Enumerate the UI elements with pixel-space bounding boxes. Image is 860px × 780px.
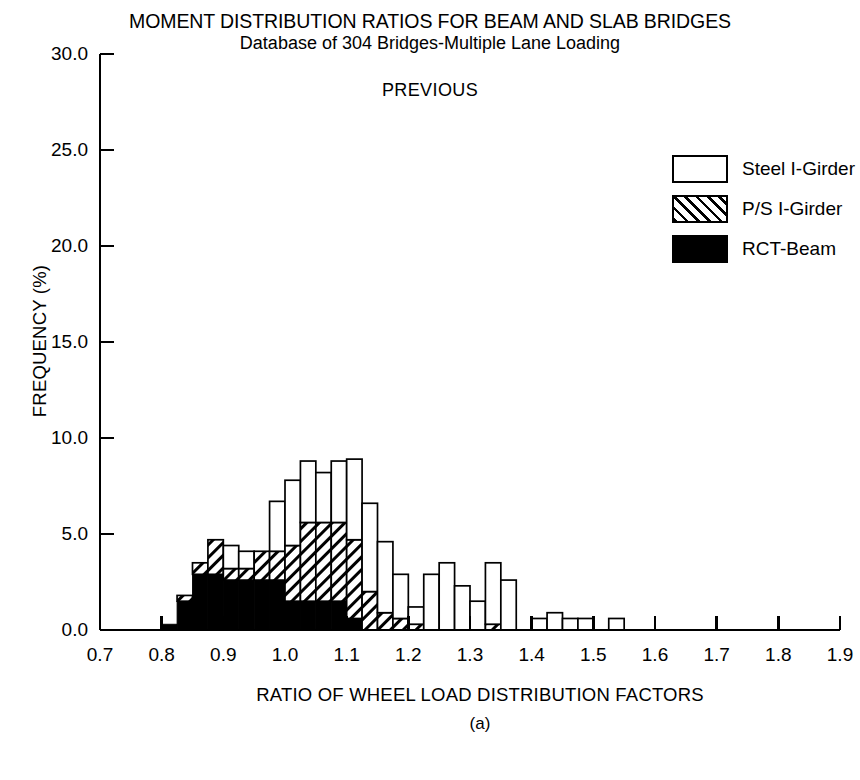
- histogram-bar-segment: [208, 540, 223, 575]
- legend-label: Steel I-Girder: [742, 158, 855, 180]
- histogram-bar-segment: [193, 563, 208, 575]
- histogram-bar-segment: [316, 601, 331, 630]
- histogram-bar-segment: [331, 522, 346, 601]
- histogram-bar-segment: [270, 580, 285, 630]
- histogram-bar-segment: [331, 601, 346, 630]
- legend: Steel I-GirderP/S I-GirderRCT-Beam: [672, 152, 860, 272]
- histogram-bar-segment: [347, 459, 362, 540]
- histogram-bar-segment: [239, 569, 254, 581]
- histogram-bar-segment: [285, 601, 300, 630]
- legend-swatch-empty: [672, 155, 728, 183]
- histogram-bar-segment: [239, 551, 254, 568]
- histogram-bar-segment: [300, 461, 315, 522]
- histogram-bar-segment: [578, 618, 593, 630]
- histogram-bar-segment: [439, 563, 454, 630]
- legend-item[interactable]: P/S I-Girder: [672, 192, 860, 226]
- histogram-bar-segment: [285, 546, 300, 602]
- histogram-bar-segment: [270, 501, 285, 551]
- plot-area: [0, 0, 860, 780]
- histogram-bar-segment: [393, 618, 408, 630]
- histogram-bar-segment: [177, 601, 192, 630]
- histogram-bar-segment: [300, 601, 315, 630]
- histogram-bar-segment: [208, 574, 223, 630]
- histogram-bar-segment: [563, 618, 578, 630]
- histogram-bar-segment: [547, 613, 562, 630]
- histogram-bar-segment: [193, 574, 208, 630]
- chart-figure: MOMENT DISTRIBUTION RATIOS FOR BEAM AND …: [0, 0, 860, 780]
- legend-swatch-solid: [672, 235, 728, 263]
- histogram-bar-segment: [485, 563, 500, 624]
- histogram-bar-segment: [347, 540, 362, 619]
- histogram-bar-segment: [254, 580, 269, 630]
- histogram-bar-segment: [254, 551, 269, 580]
- legend-item[interactable]: RCT-Beam: [672, 232, 860, 266]
- legend-label: RCT-Beam: [742, 238, 836, 260]
- histogram-bar-segment: [609, 618, 624, 630]
- histogram-bar-segment: [177, 595, 192, 601]
- legend-item[interactable]: Steel I-Girder: [672, 152, 860, 186]
- histogram-bar-segment: [424, 574, 439, 630]
- histogram-bar-segment: [347, 618, 362, 630]
- histogram-bar-segment: [316, 473, 331, 523]
- histogram-bar-segment: [270, 551, 285, 580]
- histogram-bar-segment: [331, 461, 346, 522]
- histogram-bar-segment: [532, 618, 547, 630]
- histogram-bar-segment: [362, 592, 377, 630]
- histogram-bar-segment: [300, 522, 315, 601]
- legend-label: P/S I-Girder: [742, 198, 842, 220]
- histogram-bar-segment: [378, 542, 393, 613]
- histogram-bar-segment: [393, 574, 408, 618]
- histogram-bar-segment: [408, 607, 423, 624]
- histogram-bar-segment: [223, 546, 238, 569]
- histogram-bar-segment: [285, 480, 300, 545]
- histogram-bar-segment: [470, 601, 485, 630]
- histogram-bar-segment: [316, 522, 331, 601]
- histogram-bar-segment: [378, 613, 393, 630]
- histogram-bars: [162, 459, 625, 630]
- histogram-bar-segment: [223, 580, 238, 630]
- legend-swatch-hatch: [672, 195, 728, 223]
- histogram-bar-segment: [501, 580, 516, 630]
- histogram-bar-segment: [455, 586, 470, 630]
- histogram-bar-segment: [362, 503, 377, 591]
- histogram-bar-segment: [223, 569, 238, 581]
- histogram-bar-segment: [239, 580, 254, 630]
